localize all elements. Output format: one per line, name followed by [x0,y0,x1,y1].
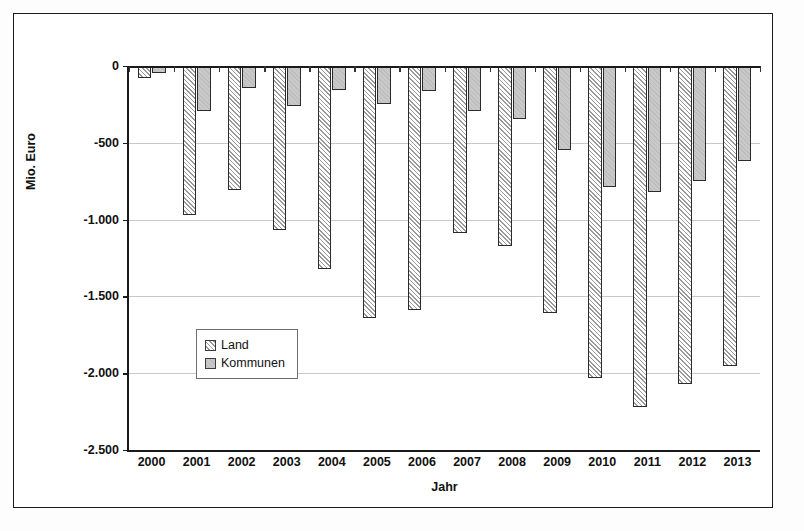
legend-item-kommunen[interactable]: Kommunen [205,354,285,372]
legend-label-kommunen: Kommunen [221,356,285,370]
legend-label-land: Land [221,338,249,352]
x-axis-tick-label: 2002 [228,455,256,469]
bar-kommunen-2001 [197,66,211,111]
x-axis-tick-label: 2001 [183,455,211,469]
x-axis-tick-label: 2006 [408,455,436,469]
chart-figure: Mio. Euro 0-500-1.000-1.500-2.000-2.500 … [0,0,804,531]
y-axis-tick [123,450,129,451]
x-axis-title: Jahr [129,480,760,494]
x-axis-tick [264,66,265,72]
bar-land-2005 [363,66,377,318]
bar-land-2006 [408,66,422,310]
y-axis-tick [123,373,129,374]
y-axis-tick-label: -1.000 [84,213,119,227]
x-axis-tick [219,66,220,72]
y-axis-tick [123,66,129,67]
x-axis-tick [490,66,491,72]
gridline [129,143,760,144]
x-axis-line [127,450,760,452]
y-axis-tick [123,296,129,297]
x-axis-tick [309,66,310,72]
legend-swatch-kommunen-icon [205,358,216,369]
x-axis-tick-label: 2010 [588,455,616,469]
bar-kommunen-2005 [377,66,391,104]
y-axis-tick-label: -2.000 [84,366,119,380]
x-axis-tick-label: 2005 [363,455,391,469]
x-axis-tick-label: 2011 [634,455,661,469]
y-axis-line [127,66,129,450]
y-axis-tick [123,143,129,144]
y-axis-tick-label: -1.500 [84,289,119,303]
bar-kommunen-2013 [738,66,752,161]
bar-kommunen-2010 [603,66,617,187]
bar-kommunen-2004 [332,66,346,90]
x-axis-tick [625,66,626,72]
x-axis-tick-label: 2013 [724,455,752,469]
y-axis-tick-labels: 0-500-1.000-1.500-2.000-2.500 [55,66,119,450]
y-axis-tick [123,220,129,221]
y-axis-tick-label: -500 [94,136,119,150]
bar-kommunen-2011 [648,66,662,192]
bar-land-2002 [228,66,242,190]
bar-kommunen-2002 [242,66,256,88]
x-axis-tick-label: 2000 [138,455,166,469]
y-axis-tick-label: 0 [112,59,119,73]
bar-land-2013 [723,66,737,366]
bar-kommunen-2012 [693,66,707,181]
bar-kommunen-2007 [468,66,482,111]
gridline [129,296,760,297]
bar-kommunen-2006 [422,66,436,91]
x-axis-tick-label: 2003 [273,455,301,469]
bar-land-2012 [678,66,692,384]
x-axis-tick [354,66,355,72]
bar-land-2001 [183,66,197,215]
x-axis-tick [535,66,536,72]
gridline [129,220,760,221]
y-axis-tick-label: -2.500 [84,443,119,457]
y-axis-title: Mio. Euro [24,133,38,190]
plot-area [129,66,760,450]
bar-kommunen-2009 [558,66,572,150]
x-axis-tick-label: 2004 [318,455,346,469]
bar-kommunen-2008 [513,66,527,119]
x-axis-tick [760,66,761,72]
x-axis-tick-labels: 2000200120022003200420052006200720082009… [129,455,760,475]
plot-background [129,66,760,450]
x-axis-tick-label: 2008 [498,455,526,469]
chart-legend: Land Kommunen [196,329,298,379]
bar-land-2004 [318,66,332,269]
legend-swatch-land-icon [205,340,216,351]
bar-land-2007 [453,66,467,233]
bar-land-2008 [498,66,512,246]
x-axis-tick [399,66,400,72]
x-axis-tick-label: 2012 [678,455,706,469]
x-axis-tick [715,66,716,72]
x-axis-tick [670,66,671,72]
bar-land-2010 [588,66,602,378]
x-axis-tick-label: 2007 [453,455,481,469]
x-axis-tick-label: 2009 [543,455,571,469]
x-axis-tick [445,66,446,72]
bar-land-2011 [633,66,647,407]
bar-land-2009 [543,66,557,313]
x-axis-tick [129,66,130,72]
bar-land-2003 [273,66,287,230]
legend-item-land[interactable]: Land [205,336,285,354]
x-axis-tick [174,66,175,72]
x-axis-tick [580,66,581,72]
bar-kommunen-2003 [287,66,301,106]
